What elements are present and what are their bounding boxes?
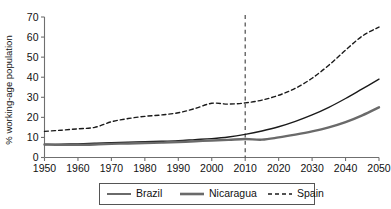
chart-container: % working-age population 010203040506070… bbox=[0, 0, 391, 209]
x-tick-label-1950: 1950 bbox=[33, 162, 57, 174]
series-lines bbox=[45, 27, 380, 145]
series-line-spain bbox=[45, 27, 380, 131]
series-line-brazil bbox=[45, 79, 380, 144]
line-chart: % working-age population 010203040506070… bbox=[0, 0, 391, 209]
y-tick-label-20: 20 bbox=[27, 111, 39, 123]
x-tick-label-2010: 2010 bbox=[234, 162, 258, 174]
x-tick-label-2040: 2040 bbox=[334, 162, 358, 174]
y-tick-label-60: 60 bbox=[27, 31, 39, 43]
y-tick-label-70: 70 bbox=[27, 11, 39, 23]
y-axis-ticks: 010203040506070 bbox=[27, 11, 45, 164]
x-tick-label-2000: 2000 bbox=[200, 162, 224, 174]
x-tick-label-2020: 2020 bbox=[267, 162, 291, 174]
series-line-nicaragua bbox=[45, 107, 380, 145]
y-tick-label-30: 30 bbox=[27, 91, 39, 103]
chart-legend: Brazil Nicaragua Spain bbox=[100, 184, 325, 205]
x-tick-label-2050: 2050 bbox=[367, 162, 391, 174]
legend-label-brazil: Brazil bbox=[136, 187, 162, 199]
x-tick-label-2030: 2030 bbox=[300, 162, 324, 174]
legend-label-spain: Spain bbox=[297, 187, 324, 199]
x-tick-label-1980: 1980 bbox=[133, 162, 157, 174]
y-tick-label-10: 10 bbox=[27, 131, 39, 143]
x-tick-label-1960: 1960 bbox=[66, 162, 90, 174]
y-tick-label-40: 40 bbox=[27, 71, 39, 83]
y-axis-title-text: % working-age population bbox=[3, 35, 14, 144]
y-axis-title: % working-age population bbox=[3, 35, 14, 144]
x-tick-label-1990: 1990 bbox=[167, 162, 191, 174]
legend-label-nicaragua: Nicaragua bbox=[209, 187, 257, 199]
y-tick-label-50: 50 bbox=[27, 51, 39, 63]
x-axis-ticks: 1950196019701980199020002010202020302040… bbox=[33, 158, 391, 174]
x-tick-label-1970: 1970 bbox=[100, 162, 124, 174]
